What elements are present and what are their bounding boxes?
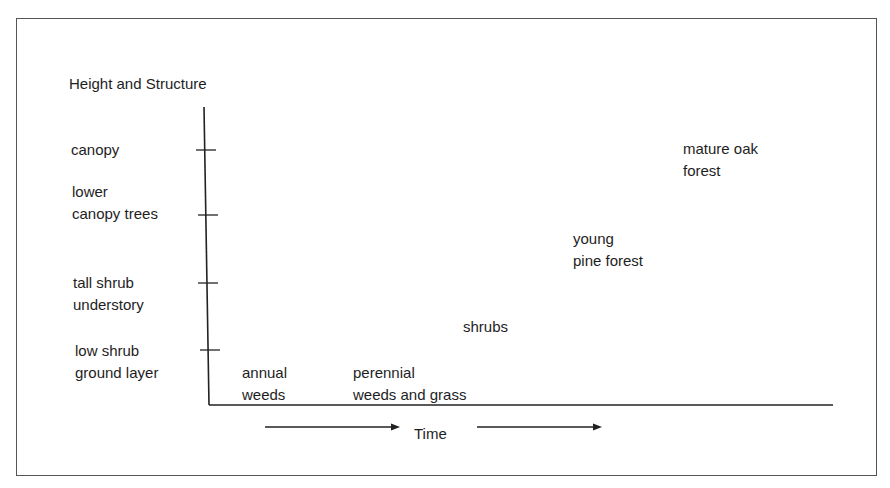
stage-shrubs: shrubs xyxy=(463,316,508,338)
time-arrow-right xyxy=(477,424,602,431)
x-axis-label-time: Time xyxy=(414,423,447,445)
y-axis-title: Height and Structure xyxy=(69,73,207,95)
level-lower-canopy-trees: lower canopy trees xyxy=(72,181,158,225)
y-axis xyxy=(204,107,209,405)
level-canopy: canopy xyxy=(71,139,119,161)
level-tall-shrub-understory: tall shrub understory xyxy=(73,272,144,316)
time-arrow-left xyxy=(265,424,400,431)
stage-young-pine-forest: young pine forest xyxy=(573,228,643,272)
level-low-shrub-ground-layer: low shrub ground layer xyxy=(75,340,158,384)
stage-mature-oak-forest: mature oak forest xyxy=(683,138,758,182)
stage-perennial-weeds-grass: perennial weeds and grass xyxy=(353,362,466,406)
stage-annual-weeds: annual weeds xyxy=(242,362,287,406)
